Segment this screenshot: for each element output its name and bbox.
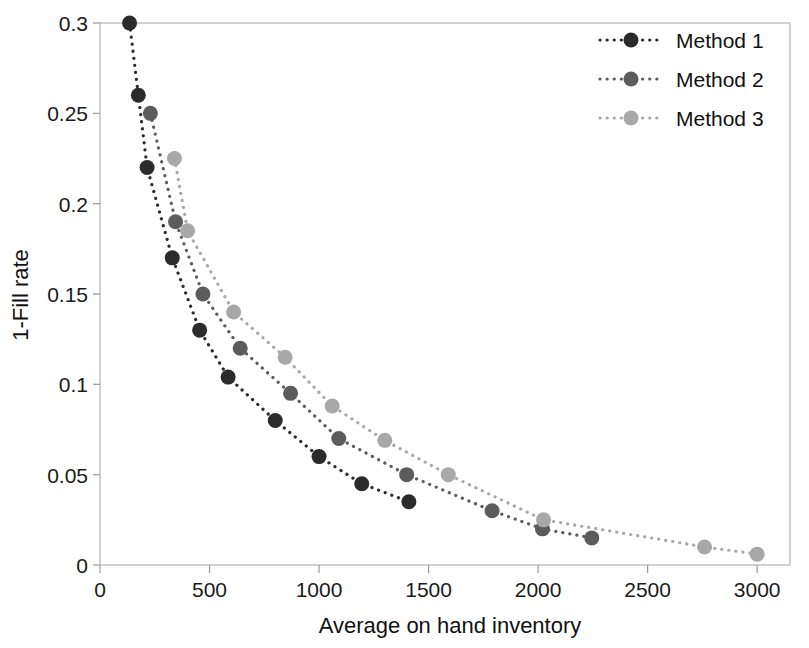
data-point-marker	[485, 503, 500, 518]
y-tick-label: 0.25	[47, 102, 88, 125]
legend-marker-icon	[624, 111, 639, 126]
x-tick-label: 1500	[405, 578, 452, 601]
data-point-marker	[180, 223, 195, 238]
x-tick-label: 0	[94, 578, 106, 601]
data-point-marker	[331, 431, 346, 446]
x-axis-ticks: 050010001500200025003000	[94, 565, 780, 601]
data-point-marker	[168, 214, 183, 229]
x-tick-label: 1000	[296, 578, 343, 601]
legend-marker-icon	[624, 33, 639, 48]
y-tick-label: 0.05	[47, 464, 88, 487]
y-tick-label: 0	[76, 554, 88, 577]
x-axis-title: Average on hand inventory	[319, 613, 582, 638]
y-tick-label: 0.3	[59, 12, 88, 35]
legend-label: Method 2	[676, 68, 764, 91]
data-point-marker	[401, 494, 416, 509]
data-point-marker	[143, 106, 158, 121]
data-point-marker	[131, 88, 146, 103]
data-point-marker	[283, 386, 298, 401]
legend-label: Method 1	[676, 29, 764, 52]
data-point-marker	[312, 449, 327, 464]
data-point-marker	[165, 250, 180, 265]
data-point-marker	[399, 467, 414, 482]
data-point-marker	[268, 413, 283, 428]
legend-marker-icon	[624, 72, 639, 87]
x-tick-label: 2000	[515, 578, 562, 601]
data-point-marker	[441, 467, 456, 482]
data-point-marker	[750, 547, 765, 562]
y-axis-title: 1-Fill rate	[8, 249, 33, 341]
y-tick-label: 0.1	[59, 373, 88, 396]
data-point-marker	[354, 476, 369, 491]
chart-figure: 00.050.10.150.20.250.3 05001000150020002…	[0, 0, 809, 648]
data-point-marker	[122, 16, 137, 31]
data-point-marker	[226, 305, 241, 320]
data-point-marker	[584, 530, 599, 545]
legend-label: Method 3	[676, 107, 764, 130]
data-point-marker	[536, 512, 551, 527]
data-point-marker	[233, 341, 248, 356]
x-tick-label: 3000	[734, 578, 781, 601]
x-tick-label: 2500	[624, 578, 671, 601]
scatter-plot: 00.050.10.150.20.250.3 05001000150020002…	[0, 0, 809, 648]
y-tick-label: 0.2	[59, 193, 88, 216]
data-point-marker	[377, 433, 392, 448]
data-point-marker	[278, 350, 293, 365]
data-point-marker	[221, 370, 236, 385]
data-point-marker	[325, 399, 340, 414]
data-point-marker	[167, 151, 182, 166]
data-point-marker	[195, 287, 210, 302]
y-tick-label: 0.15	[47, 283, 88, 306]
y-axis-ticks: 00.050.10.150.20.250.3	[47, 12, 100, 577]
data-point-marker	[140, 160, 155, 175]
data-point-marker	[192, 323, 207, 338]
data-point-marker	[697, 539, 712, 554]
x-tick-label: 500	[192, 578, 227, 601]
